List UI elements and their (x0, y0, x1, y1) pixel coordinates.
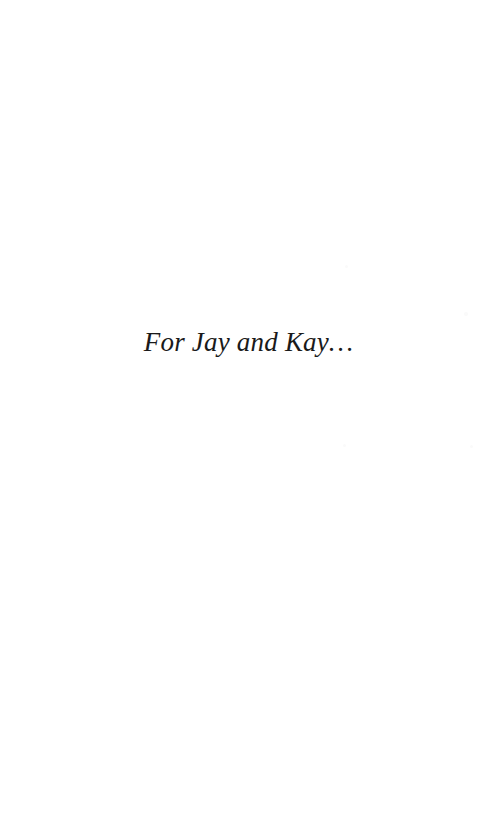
dedication-page: For Jay and Kay… (0, 0, 477, 816)
scan-speck (343, 444, 346, 447)
scan-speck (345, 265, 348, 268)
dedication-text: For Jay and Kay… (144, 325, 353, 359)
scan-speck (464, 312, 468, 316)
dedication-block: For Jay and Kay… (0, 325, 477, 359)
scan-speck (470, 445, 473, 448)
